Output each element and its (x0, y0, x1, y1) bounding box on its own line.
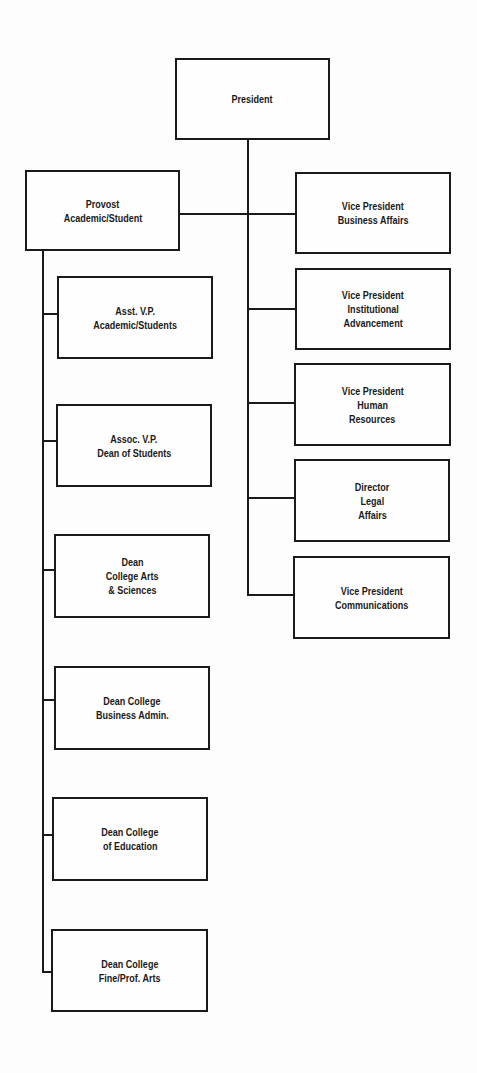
box-label: Legal (360, 494, 384, 508)
box-label: Vice President (341, 384, 403, 398)
box-label: Fine/Prof. Arts (99, 971, 161, 985)
vp-communications-box: Vice President Communications (293, 556, 450, 639)
dean-arts-sciences-box: Dean College Arts & Sciences (54, 534, 210, 618)
box-label: Advancement (343, 316, 402, 330)
box-label: College Arts (106, 569, 159, 583)
box-label: Business Admin. (96, 708, 169, 722)
box-label: Affairs (358, 508, 387, 522)
connector-asst-vp (42, 313, 58, 315)
dean-fine-prof-arts-box: Dean College Fine/Prof. Arts (51, 929, 208, 1012)
box-label: President (232, 92, 273, 106)
box-label: Asst. V.P. (115, 304, 155, 318)
president-box: President (175, 58, 330, 140)
box-label: of Education (103, 839, 158, 853)
box-label: Business Affairs (338, 213, 409, 227)
box-label: Communications (335, 598, 408, 612)
box-label: Dean College (101, 825, 158, 839)
box-label: Dean (121, 555, 143, 569)
provost-box: Provost Academic/Student (25, 170, 180, 251)
director-legal-affairs-box: Director Legal Affairs (294, 459, 450, 542)
box-label: Vice President (342, 199, 404, 213)
box-label: Human (357, 398, 388, 412)
connector-vp-hr (247, 402, 295, 404)
dean-business-admin-box: Dean College Business Admin. (54, 666, 210, 750)
box-label: Resources (349, 412, 395, 426)
provost-connector-line (179, 213, 295, 215)
connector-vp-institutional (247, 308, 295, 310)
vp-business-affairs-box: Vice President Business Affairs (295, 172, 451, 254)
connector-assoc-vp (42, 440, 57, 442)
vp-human-resources-box: Vice President Human Resources (294, 363, 451, 446)
connector-vp-communications (247, 594, 295, 596)
box-label: Academic/Students (93, 318, 177, 332)
box-label: Vice President (340, 584, 402, 598)
connector-legal (247, 497, 295, 499)
president-trunk-line (247, 139, 249, 595)
provost-trunk-line (42, 250, 44, 972)
box-label: Institutional (347, 302, 398, 316)
box-label: Assoc. V.P. (110, 432, 157, 446)
box-label: Dean College (103, 694, 160, 708)
assoc-vp-dean-of-students-box: Assoc. V.P. Dean of Students (56, 404, 212, 487)
box-label: & Sciences (108, 583, 156, 597)
asst-vp-academic-students-box: Asst. V.P. Academic/Students (57, 276, 213, 359)
box-label: Vice President (342, 288, 404, 302)
box-label: Dean of Students (97, 446, 171, 460)
dean-education-box: Dean College of Education (52, 797, 208, 881)
box-label: Director (355, 480, 390, 494)
box-label: Provost (86, 197, 120, 211)
box-label: Dean College (101, 957, 158, 971)
vp-institutional-advancement-box: Vice President Institutional Advancement (295, 268, 451, 350)
box-label: Academic/Student (63, 211, 142, 225)
